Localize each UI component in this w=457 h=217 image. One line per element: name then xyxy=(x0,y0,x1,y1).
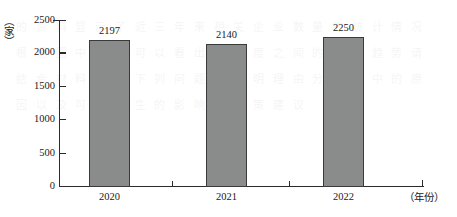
y-tick-label-500: 500 xyxy=(0,148,55,159)
bar-chart-figure: 的 资 料 显 示 了 近 三 年 来 相 关 企 业 数 量 的 统 计 情 … xyxy=(0,0,457,217)
y-tick-label-2000: 2000 xyxy=(0,47,55,58)
x-axis-end-cap xyxy=(422,180,423,187)
x-tick-mark-2 xyxy=(289,181,290,187)
y-tick-mark-1500 xyxy=(60,86,66,87)
bar-2022 xyxy=(323,37,364,187)
y-axis-line xyxy=(59,20,60,187)
bar-value-2022: 2250 xyxy=(323,22,364,33)
y-tick-mark-1000 xyxy=(60,119,66,120)
x-tick-mark-1 xyxy=(172,181,173,187)
x-axis-unit-label: （年份） xyxy=(404,192,444,203)
chart-plot-area: 0 500 1000 1500 2000 2500 （家） 2197 2140 … xyxy=(0,0,457,217)
bar-value-2021: 2140 xyxy=(206,29,247,40)
y-tick-mark-2500 xyxy=(60,20,66,21)
y-tick-mark-0 xyxy=(60,186,66,187)
y-tick-mark-2000 xyxy=(60,52,66,53)
y-tick-mark-500 xyxy=(60,153,66,154)
x-category-label-2022: 2022 xyxy=(318,191,369,202)
y-tick-label-1500: 1500 xyxy=(0,81,55,92)
x-category-label-2020: 2020 xyxy=(84,191,135,202)
x-category-label-2021: 2021 xyxy=(201,191,252,202)
y-tick-label-1000: 1000 xyxy=(0,114,55,125)
bar-value-2020: 2197 xyxy=(89,25,130,36)
y-tick-label-0: 0 xyxy=(0,181,55,192)
bar-2020 xyxy=(89,40,130,187)
y-axis-unit-label: （家） xyxy=(2,16,13,46)
bar-2021 xyxy=(206,44,247,187)
